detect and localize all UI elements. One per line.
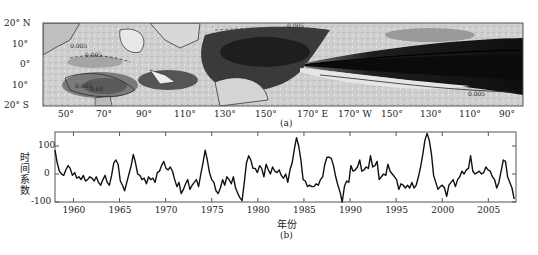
chart-frame bbox=[55, 132, 516, 202]
x-tick-label: 1980 bbox=[247, 205, 270, 215]
y-tick-label-0: 0 bbox=[44, 168, 50, 178]
x-tick-label: 1975 bbox=[201, 205, 224, 215]
y-tick-label-100: 100 bbox=[38, 140, 55, 150]
time-series-line bbox=[55, 133, 514, 202]
chart-caption: (b) bbox=[280, 230, 293, 240]
time-coefficient-chart bbox=[0, 0, 538, 255]
x-tick-label: 2000 bbox=[431, 205, 454, 215]
x-tick-label: 2005 bbox=[477, 205, 500, 215]
x-tick-label: 1995 bbox=[385, 205, 408, 215]
x-tick-label: 1985 bbox=[293, 205, 316, 215]
x-tick-label: 1960 bbox=[62, 205, 85, 215]
x-tick-label: 1965 bbox=[109, 205, 132, 215]
x-axis-label: 年份 bbox=[277, 216, 297, 231]
x-tick-label: 1970 bbox=[155, 205, 178, 215]
y-axis-label: 时间系数 bbox=[20, 152, 32, 196]
y-tick-label-neg100: -100 bbox=[31, 196, 51, 206]
x-tick-label: 1990 bbox=[339, 205, 362, 215]
